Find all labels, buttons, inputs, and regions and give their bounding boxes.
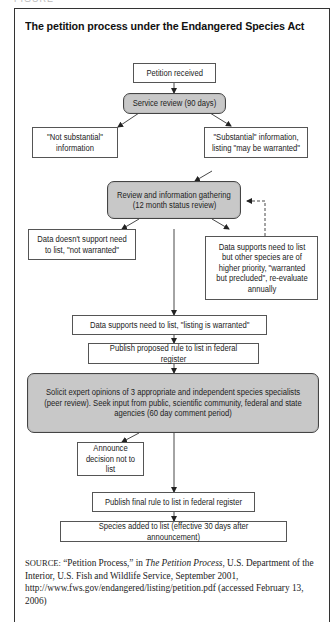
node-substantial: "Substantial" information, listing "may … [204, 127, 308, 158]
node-label: Solicit expert opinions of 3 appropriate… [42, 387, 303, 419]
node-label: "Substantial" information, listing "may … [212, 132, 300, 153]
node-announce-not-list: Announce decision not to list [77, 442, 144, 476]
node-label-line1: Review and information gathering [117, 190, 231, 201]
source-text-1: “Petition Process,” in [61, 558, 145, 568]
node-label: Data supports need to list, "listing is … [90, 320, 249, 331]
node-publish-final: Publish final rule to list in federal re… [92, 492, 255, 512]
node-label: Publish final rule to list in federal re… [105, 497, 242, 508]
node-label: Species added to list (effective 30 days… [73, 521, 274, 542]
node-label: "Not substantial" information [46, 132, 103, 153]
node-not-substantial: "Not substantial" information [32, 127, 118, 158]
node-label: Announce decision not to list [83, 443, 137, 475]
node-label: Petition received [146, 68, 202, 79]
source-label: SOURCE: [25, 558, 61, 568]
node-publish-proposed: Publish proposed rule to list in federal… [88, 343, 259, 364]
source-title: The Petition Process [145, 558, 222, 568]
node-warranted-precluded: Data supports need to list but other spe… [205, 236, 318, 300]
node-label: Data doesn't support need to list, "not … [36, 234, 128, 255]
node-label: Publish proposed rule to list in federal… [99, 343, 249, 364]
node-species-added: Species added to list (effective 30 days… [60, 521, 287, 542]
node-solicit-opinions: Solicit expert opinions of 3 appropriate… [27, 373, 319, 433]
node-review-gathering: Review and information gathering (12 mon… [107, 181, 241, 219]
source-citation: SOURCE: “Petition Process,” in The Petit… [25, 557, 325, 607]
node-listing-warranted: Data supports need to list, "listing is … [72, 315, 267, 335]
node-not-warranted: Data doesn't support need to list, "not … [28, 229, 136, 260]
node-service-review: Service review (90 days) [123, 93, 226, 114]
node-label: Data supports need to list but other spe… [214, 242, 310, 295]
node-label: Service review (90 days) [133, 98, 217, 109]
node-petition-received: Petition received [133, 63, 216, 83]
node-label-line2: (12 month status review) [132, 200, 216, 211]
